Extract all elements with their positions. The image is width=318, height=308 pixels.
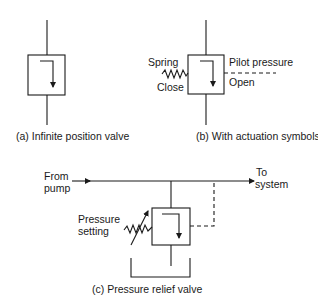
- figure-c-pressure-relief-valve: From pump To system Pressure setting (c)…: [44, 166, 289, 295]
- spring-icon: [162, 70, 188, 78]
- flow-arrow-icon: [200, 61, 213, 86]
- label-system: system: [255, 178, 289, 190]
- flow-arrow-icon: [162, 214, 179, 238]
- label-spring: Spring: [148, 56, 179, 68]
- figure-b-actuation-symbols: Spring Close Pilot pressure Open (b) Wit…: [148, 20, 318, 142]
- hydraulic-valve-diagram: (a) Infinite position valve Spring Close…: [0, 0, 318, 308]
- label-to: To: [256, 166, 267, 178]
- label-close: Close: [157, 81, 184, 93]
- figure-a-infinite-position-valve: (a) Infinite position valve: [16, 20, 129, 142]
- caption-b: (b) With actuation symbols: [196, 130, 318, 142]
- label-open: Open: [229, 76, 255, 88]
- flow-arrow-icon: [40, 61, 53, 87]
- caption-a: (a) Infinite position valve: [16, 130, 129, 142]
- tank-icon: [131, 258, 190, 277]
- caption-c: (c) Pressure relief valve: [92, 283, 202, 295]
- pilot-line: [190, 181, 214, 226]
- label-pressure: Pressure: [78, 213, 120, 225]
- label-from: From: [44, 170, 69, 182]
- label-setting: setting: [78, 225, 109, 237]
- label-pump-text: pump: [44, 182, 70, 194]
- label-pilot-pressure: Pilot pressure: [229, 56, 293, 68]
